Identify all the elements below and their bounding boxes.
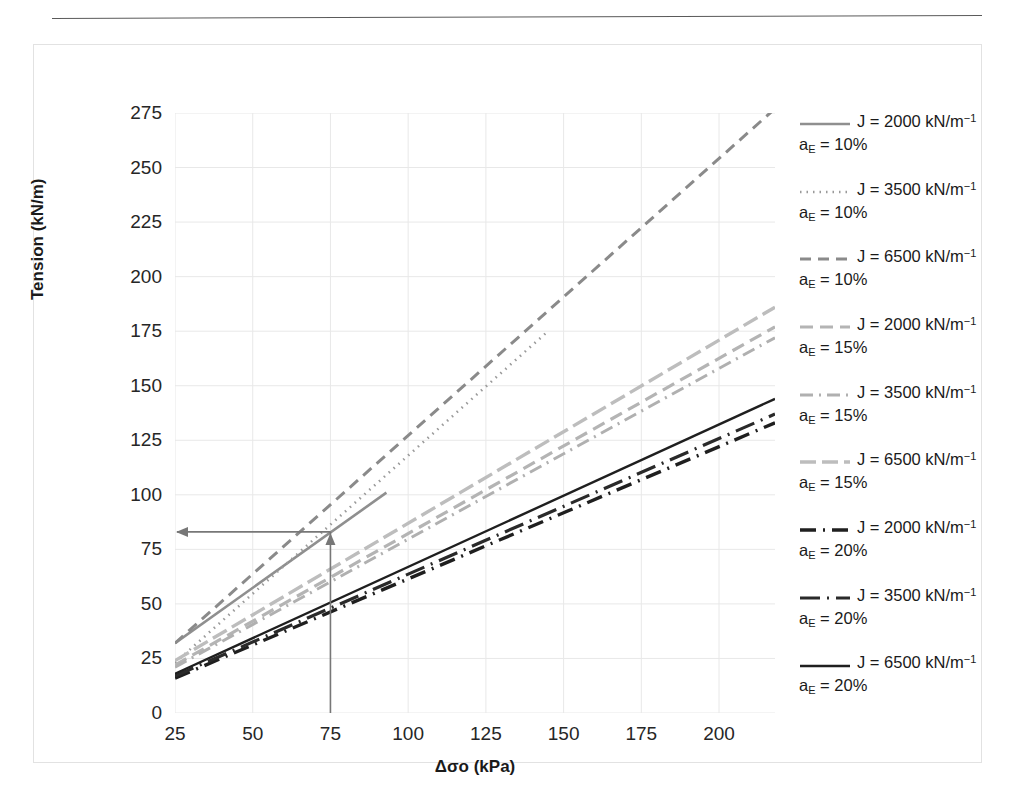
legend-ae-value: = 20% xyxy=(816,541,868,559)
legend-item[interactable]: J = 2000 kN/m−1aE = 10% xyxy=(799,107,1012,161)
x-tick-label: 75 xyxy=(320,723,341,745)
chart-legend: J = 2000 kN/m−1aE = 10%J = 3500 kN/m−1aE… xyxy=(799,107,1012,716)
legend-swatch-line-icon xyxy=(799,522,851,534)
legend-swatch-line-icon xyxy=(799,387,851,399)
legend-label-line1: J = 6500 kN/m xyxy=(857,450,964,468)
legend-exponent: −1 xyxy=(964,383,977,395)
legend-swatch-line-icon xyxy=(799,658,851,670)
legend-ae-symbol: a xyxy=(799,473,808,491)
x-tick-label: 100 xyxy=(392,723,424,745)
legend-ae-symbol: a xyxy=(799,609,808,627)
x-axis-title: Δσo (kPa) xyxy=(175,757,775,777)
series-line-1 xyxy=(175,331,548,663)
x-tick-label: 200 xyxy=(703,723,735,745)
legend-swatch-line-icon xyxy=(799,184,851,196)
x-tick-label: 50 xyxy=(242,723,263,745)
plot-area xyxy=(175,113,775,713)
legend-exponent: −1 xyxy=(964,247,977,259)
legend-exponent: −1 xyxy=(964,180,977,192)
legend-swatch-line-icon xyxy=(799,251,851,263)
y-tick-label: 0 xyxy=(151,702,162,724)
legend-ae-subscript: E xyxy=(808,549,815,561)
legend-label-line2: aE = 15% xyxy=(799,336,1012,364)
legend-ae-subscript: E xyxy=(808,346,815,358)
legend-ae-subscript: E xyxy=(808,481,815,493)
series-line-0 xyxy=(175,493,386,644)
legend-swatch-line-icon xyxy=(799,319,851,331)
legend-ae-value: = 10% xyxy=(816,203,868,221)
legend-item[interactable]: J = 6500 kN/m−1aE = 15% xyxy=(799,445,1012,499)
series-line-6 xyxy=(175,423,775,678)
legend-ae-value: = 15% xyxy=(816,473,868,491)
y-tick-label: 50 xyxy=(141,593,162,615)
legend-ae-subscript: E xyxy=(808,684,815,696)
chart-frame: Tension (kN/m) 0255075100125150175200225… xyxy=(33,44,982,763)
legend-item[interactable]: J = 6500 kN/m−1aE = 20% xyxy=(799,649,1012,703)
legend-swatch-line-icon xyxy=(799,454,851,466)
legend-ae-subscript: E xyxy=(808,413,815,425)
legend-label-line1: J = 3500 kN/m xyxy=(857,586,964,604)
legend-label-line1: J = 6500 kN/m xyxy=(857,653,964,671)
x-tick-label: 125 xyxy=(470,723,502,745)
legend-item[interactable]: J = 3500 kN/m−1aE = 10% xyxy=(799,175,1012,229)
legend-swatch-line-icon xyxy=(799,590,851,602)
legend-ae-subscript: E xyxy=(808,210,815,222)
y-axis-title: Tension (kN/m) xyxy=(28,20,48,300)
page-header-rule xyxy=(0,0,1012,30)
legend-ae-symbol: a xyxy=(799,203,808,221)
legend-ae-symbol: a xyxy=(799,135,808,153)
legend-ae-value: = 10% xyxy=(816,270,868,288)
legend-exponent: −1 xyxy=(964,586,977,598)
legend-ae-symbol: a xyxy=(799,406,808,424)
series-line-7 xyxy=(175,414,775,676)
x-axis-tick-labels: 255075100125150175200 xyxy=(175,723,775,749)
series-line-4 xyxy=(175,338,775,667)
legend-item[interactable]: J = 2000 kN/m−1aE = 15% xyxy=(799,310,1012,364)
legend-item[interactable]: J = 3500 kN/m−1aE = 15% xyxy=(799,378,1012,432)
arrow-head-left xyxy=(176,527,188,537)
y-tick-label: 275 xyxy=(130,102,162,124)
legend-label-line1: J = 2000 kN/m xyxy=(857,112,964,130)
series-line-5 xyxy=(175,307,775,660)
legend-ae-symbol: a xyxy=(799,270,808,288)
legend-label-line2: aE = 15% xyxy=(799,404,1012,432)
y-tick-label: 75 xyxy=(141,538,162,560)
legend-ae-subscript: E xyxy=(808,278,815,290)
legend-label-line2: aE = 20% xyxy=(799,539,1012,567)
y-tick-label: 175 xyxy=(130,320,162,342)
legend-label-line2: aE = 10% xyxy=(799,201,1012,229)
legend-item[interactable]: J = 6500 kN/m−1aE = 10% xyxy=(799,242,1012,296)
legend-item[interactable]: J = 2000 kN/m−1aE = 20% xyxy=(799,513,1012,567)
legend-label-line1: J = 3500 kN/m xyxy=(857,180,964,198)
legend-exponent: −1 xyxy=(964,518,977,530)
legend-ae-value: = 15% xyxy=(816,338,868,356)
gridlines xyxy=(175,113,775,713)
data-series-group xyxy=(175,113,775,678)
legend-ae-value: = 15% xyxy=(816,406,868,424)
legend-label-line1: J = 6500 kN/m xyxy=(857,247,964,265)
y-tick-label: 25 xyxy=(141,647,162,669)
legend-swatch-line-icon xyxy=(799,116,851,128)
legend-label-line1: J = 2000 kN/m xyxy=(857,518,964,536)
legend-label-line2: aE = 10% xyxy=(799,268,1012,296)
legend-label-line1: J = 2000 kN/m xyxy=(857,315,964,333)
legend-label-line1: J = 3500 kN/m xyxy=(857,383,964,401)
legend-exponent: −1 xyxy=(964,315,977,327)
y-tick-label: 125 xyxy=(130,429,162,451)
y-tick-label: 250 xyxy=(130,157,162,179)
legend-item[interactable]: J = 3500 kN/m−1aE = 20% xyxy=(799,581,1012,635)
x-tick-label: 150 xyxy=(548,723,580,745)
legend-exponent: −1 xyxy=(964,450,977,462)
legend-ae-subscript: E xyxy=(808,617,815,629)
legend-label-line2: aE = 20% xyxy=(799,607,1012,635)
legend-ae-subscript: E xyxy=(808,143,815,155)
legend-ae-value: = 20% xyxy=(816,676,868,694)
legend-exponent: −1 xyxy=(964,654,977,666)
y-tick-label: 225 xyxy=(130,211,162,233)
legend-ae-symbol: a xyxy=(799,676,808,694)
legend-ae-value: = 20% xyxy=(816,609,868,627)
y-tick-label: 100 xyxy=(130,484,162,506)
legend-ae-value: = 10% xyxy=(816,135,868,153)
y-axis-tick-labels: 0255075100125150175200225250275 xyxy=(100,113,162,713)
legend-ae-symbol: a xyxy=(799,338,808,356)
